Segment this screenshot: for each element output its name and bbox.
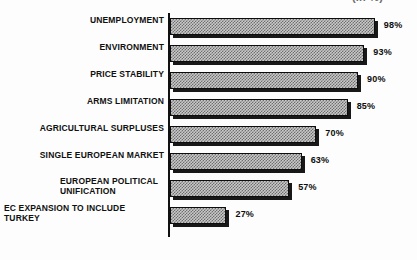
- chart-row: PRICE STABILITY90%: [0, 70, 417, 97]
- bar-value-label: 85%: [357, 101, 376, 111]
- bar-chart: (in %) UNEMPLOYMENT98%ENVIRONMENT93%PRIC…: [0, 0, 417, 260]
- bar-fill: [170, 126, 316, 143]
- chart-row: UNEMPLOYMENT98%: [0, 16, 417, 43]
- category-label: ENVIRONMENT: [4, 43, 164, 53]
- bar-value-label: 98%: [384, 20, 403, 30]
- bar-value-label: 70%: [325, 128, 344, 138]
- category-label: ARMS LIMITATION: [4, 97, 164, 107]
- category-label: EC EXPANSION TO INCLUDE TURKEY: [4, 204, 166, 223]
- chart-row: ENVIRONMENT93%: [0, 43, 417, 70]
- bar: [170, 207, 226, 224]
- bar-value-label: 93%: [373, 47, 392, 57]
- bar: [170, 126, 316, 143]
- bar: [170, 153, 302, 170]
- bar-fill: [170, 180, 289, 197]
- chart-row: EUROPEAN POLITICAL UNIFICATION57%: [0, 178, 417, 205]
- category-label: EUROPEAN POLITICAL UNIFICATION: [60, 177, 166, 196]
- bar-value-label: 57%: [298, 182, 317, 192]
- bar-fill: [170, 99, 348, 116]
- chart-row: ARMS LIMITATION85%: [0, 97, 417, 124]
- category-label: SINGLE EUROPEAN MARKET: [4, 151, 164, 161]
- plot-area: UNEMPLOYMENT98%ENVIRONMENT93%PRICE STABI…: [0, 12, 417, 248]
- bar-value-label: 27%: [235, 209, 254, 219]
- bar-value-label: 63%: [311, 155, 330, 165]
- chart-row: SINGLE EUROPEAN MARKET63%: [0, 151, 417, 178]
- bar: [170, 45, 364, 62]
- bar-fill: [170, 18, 375, 35]
- category-label: PRICE STABILITY: [4, 70, 164, 80]
- bar-value-label: 90%: [367, 74, 386, 84]
- bar-fill: [170, 72, 358, 89]
- category-label: UNEMPLOYMENT: [4, 16, 164, 26]
- bar: [170, 72, 358, 89]
- bar: [170, 18, 375, 35]
- clipped-header-note: (in %): [352, 0, 412, 3]
- bar: [170, 180, 289, 197]
- bar-fill: [170, 45, 364, 62]
- chart-row: AGRICULTURAL SURPLUSES70%: [0, 124, 417, 151]
- bar-fill: [170, 207, 226, 224]
- category-label: AGRICULTURAL SURPLUSES: [4, 124, 164, 134]
- bar-fill: [170, 153, 302, 170]
- bar: [170, 99, 348, 116]
- chart-row: EC EXPANSION TO INCLUDE TURKEY27%: [0, 205, 417, 232]
